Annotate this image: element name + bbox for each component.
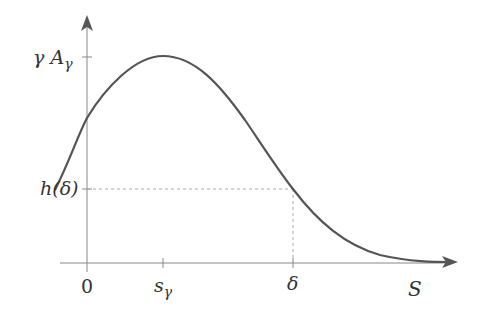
x-label-sgamma: sγ (154, 274, 173, 300)
x-label-delta: δ (287, 272, 298, 294)
y-label-hdelta: h(δ) (40, 177, 79, 199)
curve-h (55, 56, 452, 262)
y-label-peak: γ Aγ (33, 46, 73, 72)
x-label-zero: 0 (81, 275, 93, 297)
chart-canvas: γ Aγ h(δ) 0 sγ δ S (0, 0, 479, 313)
x-label-S: S (408, 277, 422, 301)
